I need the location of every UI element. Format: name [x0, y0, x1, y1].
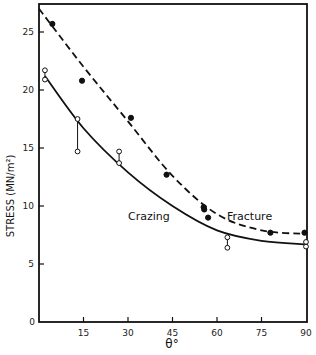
fracture-data-point [202, 207, 207, 212]
plot-frame [39, 4, 307, 322]
fracture-data-point [50, 21, 55, 26]
fracture-data-point [206, 215, 211, 220]
x-tick-label: 75 [256, 328, 267, 338]
fracture-data-point [79, 78, 84, 83]
fit-curves [39, 9, 306, 244]
x-tick-label: 60 [211, 328, 223, 338]
crazing-data-point [43, 77, 48, 82]
crazing-data-point [304, 244, 309, 249]
fracture-data-point [164, 172, 169, 177]
crazing-data-point [117, 161, 122, 166]
crazing-data-point [43, 68, 48, 73]
crazing-data-point [117, 149, 122, 154]
y-tick-label: 20 [23, 85, 35, 95]
x-tick-label: 90 [300, 328, 312, 338]
stress-vs-angle-chart: 0153045607590 510152025 Crazing Fracture… [0, 0, 316, 355]
crazing-curve-label: Crazing [128, 210, 170, 223]
crazing-data-point [75, 149, 80, 154]
y-tick-label: 25 [23, 27, 34, 37]
fracture-data-point [128, 115, 133, 120]
y-axis-label: STRESS (MN/m²) [5, 155, 16, 238]
crazing-data-point [304, 240, 309, 245]
x-axis-ticks: 0153045607590 [29, 317, 312, 338]
x-tick-label: 30 [122, 328, 134, 338]
x-tick-label: 15 [78, 328, 89, 338]
x-axis-label: θ° [165, 337, 178, 351]
y-axis-ticks: 510152025 [23, 27, 44, 269]
y-tick-label: 15 [23, 143, 34, 153]
crazing-data-point [75, 117, 80, 122]
fracture-data-point [302, 230, 307, 235]
y-tick-label: 10 [23, 201, 35, 211]
fracture-curve-label: Fracture [227, 210, 272, 223]
crazing-data-point [225, 245, 230, 250]
x-tick-label: 0 [29, 317, 35, 327]
fracture-data-point [268, 230, 273, 235]
crazing-data-point [225, 235, 230, 240]
y-tick-label: 5 [28, 259, 34, 269]
